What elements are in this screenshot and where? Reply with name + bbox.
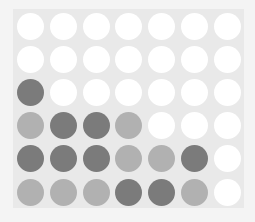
empty-slot[interactable] [148,112,175,139]
empty-slot[interactable] [214,145,241,172]
empty-slot[interactable] [115,13,142,40]
empty-slot[interactable] [50,13,77,40]
empty-slot[interactable] [17,13,44,40]
dark-disc[interactable] [50,112,77,139]
empty-slot[interactable] [115,46,142,73]
light-disc[interactable] [83,179,110,206]
empty-slot[interactable] [17,46,44,73]
empty-slot[interactable] [181,13,208,40]
dark-disc[interactable] [115,179,142,206]
light-disc[interactable] [50,179,77,206]
empty-slot[interactable] [50,79,77,106]
light-disc[interactable] [17,112,44,139]
light-disc[interactable] [115,145,142,172]
empty-slot[interactable] [181,112,208,139]
empty-slot[interactable] [83,13,110,40]
empty-slot[interactable] [83,79,110,106]
empty-slot[interactable] [181,46,208,73]
game-board[interactable] [13,9,244,208]
empty-slot[interactable] [214,46,241,73]
empty-slot[interactable] [214,13,241,40]
light-disc[interactable] [17,179,44,206]
empty-slot[interactable] [115,79,142,106]
empty-slot[interactable] [148,79,175,106]
light-disc[interactable] [148,145,175,172]
empty-slot[interactable] [181,79,208,106]
dark-disc[interactable] [148,179,175,206]
light-disc[interactable] [181,179,208,206]
dark-disc[interactable] [83,112,110,139]
empty-slot[interactable] [50,46,77,73]
empty-slot[interactable] [214,79,241,106]
dark-disc[interactable] [50,145,77,172]
dark-disc[interactable] [17,79,44,106]
empty-slot[interactable] [214,112,241,139]
dark-disc[interactable] [17,145,44,172]
empty-slot[interactable] [148,46,175,73]
empty-slot[interactable] [214,179,241,206]
dark-disc[interactable] [181,145,208,172]
empty-slot[interactable] [83,46,110,73]
light-disc[interactable] [115,112,142,139]
empty-slot[interactable] [148,13,175,40]
dark-disc[interactable] [83,145,110,172]
